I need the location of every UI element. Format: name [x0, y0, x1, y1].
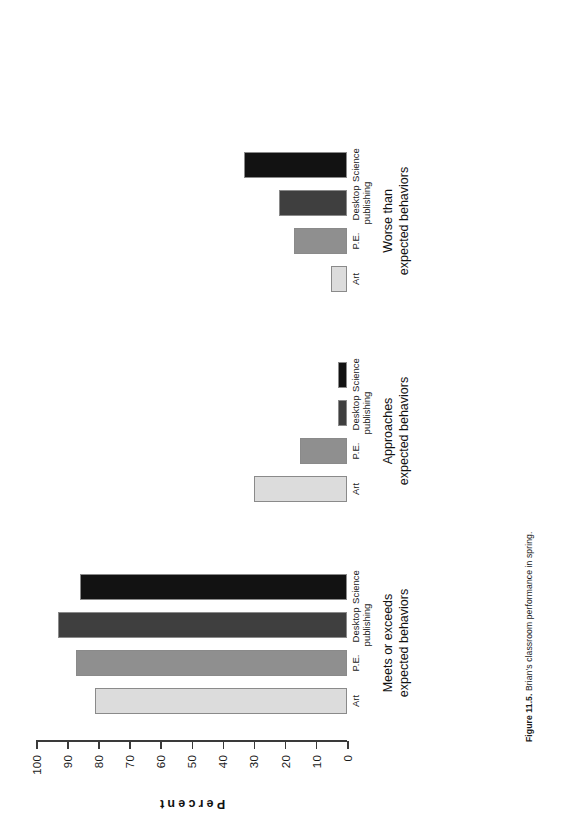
bar[interactable] — [244, 152, 347, 178]
y-axis-title: Percent — [157, 797, 225, 811]
bar-group: ArtP.E.Desktop publishingScienceWorse th… — [36, 132, 436, 310]
y-axis-tick-label: 0 — [342, 755, 354, 762]
figure-rotation-wrapper: 1009080706050403020100 Percent ArtP.E.De… — [0, 0, 580, 826]
y-axis-tick-label: 10 — [311, 755, 323, 768]
bar[interactable] — [58, 612, 347, 638]
y-axis-tick: 90 — [67, 741, 69, 749]
bar[interactable] — [338, 362, 347, 388]
bar-group: ArtP.E.Desktop publishingScienceApproach… — [36, 342, 436, 520]
y-axis-tick: 0 — [347, 741, 349, 749]
y-axis-tick: 80 — [98, 741, 100, 749]
y-axis-tick: 10 — [316, 741, 318, 749]
figure-caption: Figure 11.5. Brian's classroom performan… — [524, 532, 534, 742]
bar[interactable] — [76, 650, 347, 676]
y-axis-tick-label: 60 — [155, 755, 167, 768]
bar-category-label: Science — [351, 352, 362, 398]
bar-category-label: Science — [351, 142, 362, 188]
bar[interactable] — [331, 266, 347, 292]
bar[interactable] — [294, 228, 347, 254]
y-axis-tick: 100 — [36, 741, 38, 749]
y-axis-tick: 30 — [254, 741, 256, 749]
y-axis-tick-label: 20 — [280, 755, 292, 768]
figure-caption-text: Brian's classroom performance in spring. — [524, 532, 534, 691]
bar[interactable] — [300, 438, 347, 464]
bar[interactable] — [338, 400, 347, 426]
bar-group-title: Approaches expected behaviors — [380, 342, 413, 520]
bar[interactable] — [279, 190, 347, 216]
bar-group: ArtP.E.Desktop publishingScienceMeets or… — [36, 554, 436, 732]
y-axis-tick: 70 — [129, 741, 131, 749]
y-axis-tick-label: 50 — [186, 755, 198, 768]
bar[interactable] — [254, 476, 347, 502]
y-axis-tick: 60 — [160, 741, 162, 749]
y-axis-tick-label: 40 — [217, 755, 229, 768]
bar[interactable] — [80, 574, 347, 600]
y-axis-tick-label: 30 — [248, 755, 260, 768]
figure: 1009080706050403020100 Percent ArtP.E.De… — [0, 0, 580, 826]
figure-number: Figure 11.5. — [524, 694, 534, 743]
bar-group-title: Worse than expected behaviors — [380, 132, 413, 310]
y-axis-tick: 20 — [285, 741, 287, 749]
bar-category-label: Science — [351, 564, 362, 610]
y-axis-tick-label: 90 — [62, 755, 74, 768]
y-axis-tick-label: 70 — [124, 755, 136, 768]
y-axis-tick-label: 100 — [31, 755, 43, 775]
bar-group-title: Meets or exceeds expected behaviors — [380, 554, 413, 732]
y-axis-tick: 40 — [223, 741, 225, 749]
bar[interactable] — [95, 688, 347, 714]
chart-plot-area: 1009080706050403020100 Percent ArtP.E.De… — [36, 102, 436, 742]
y-axis-tick: 50 — [192, 741, 194, 749]
y-axis-tick-label: 80 — [93, 755, 105, 768]
